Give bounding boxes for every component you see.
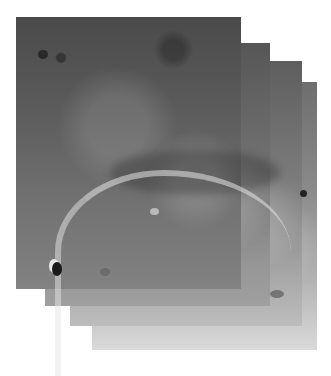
crater [100, 268, 110, 276]
crater [300, 190, 307, 197]
crater-rim-ridge [55, 170, 291, 376]
crater [52, 262, 62, 276]
crater [38, 50, 48, 59]
crater [150, 208, 159, 215]
crater [270, 290, 284, 298]
